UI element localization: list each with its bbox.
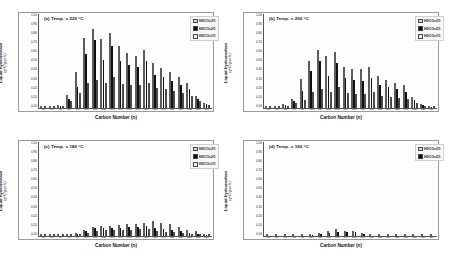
x-tick: C13	[108, 237, 117, 240]
bar	[347, 93, 349, 108]
bar-group	[324, 142, 333, 236]
legend-item[interactable]: H2/CO=1/1	[193, 34, 215, 39]
x-tick: C5	[39, 237, 48, 240]
x-tick: C20	[393, 237, 402, 240]
bar	[165, 89, 167, 108]
bar-group	[142, 14, 151, 108]
y-tick: 0.80	[256, 32, 263, 35]
x-tick: C13	[108, 109, 117, 112]
x-tick: C16	[359, 109, 368, 112]
legend-label: H2/CO=3/1	[199, 147, 216, 151]
bar	[373, 92, 375, 108]
y-tick: 0.00	[256, 233, 263, 236]
plot-area-c	[39, 142, 211, 236]
bar	[148, 83, 150, 108]
bar	[355, 94, 357, 108]
x-tick: C20	[168, 109, 177, 112]
y-axis-unit-b: (gHC/gcat·hr)	[228, 30, 232, 96]
bar	[156, 88, 158, 108]
y-axis-unit-c: (gHC/gcat·hr)	[3, 158, 7, 224]
y-tick: 0.20	[31, 215, 38, 218]
bar-group	[290, 14, 299, 108]
x-tick: C11	[91, 237, 100, 240]
x-tick: C6	[273, 109, 282, 112]
x-tick: C10	[307, 237, 316, 240]
y-tick: 0.60	[256, 50, 263, 53]
legend-item[interactable]: H2/CO=2/1	[193, 26, 215, 31]
y-axis-label-text-d: Liquid hydrocarbon	[223, 171, 228, 211]
x-tick: C10	[82, 109, 91, 112]
bar-group	[177, 142, 186, 236]
legend-item[interactable]: H2/CO=1/1	[193, 162, 215, 167]
x-tick: C16	[359, 237, 368, 240]
y-tick: 0.30	[256, 206, 263, 209]
bar	[70, 101, 72, 108]
bar-group	[273, 142, 282, 236]
bar	[113, 77, 115, 108]
x-tick: C19	[159, 109, 168, 112]
legend-item[interactable]: H2/CO=3/1	[418, 19, 440, 24]
x-tick: C9	[73, 237, 82, 240]
x-tick-labels-d: C5C6C7C8C9C10C11C12C13C14C15C16C17C18C19…	[264, 237, 436, 240]
y-tick: 0.80	[31, 160, 38, 163]
legend-item[interactable]: H2/CO=2/1	[418, 26, 440, 31]
bar-group	[281, 142, 290, 236]
bar-group	[333, 142, 342, 236]
legend-item[interactable]: H2/CO=1/1	[418, 34, 440, 39]
y-tick: 0.50	[256, 59, 263, 62]
y-tick: 1.00	[31, 14, 38, 17]
x-tick: C19	[159, 237, 168, 240]
bar-group	[82, 142, 91, 236]
bar-group	[65, 142, 74, 236]
bar	[304, 100, 306, 108]
y-tick-labels-c: 1.00 0.90 0.80 0.70 0.60 0.50 0.40 0.30 …	[20, 142, 38, 236]
x-axis-label-c: Carbon Number (n)	[18, 243, 214, 248]
x-tick: C23	[419, 237, 428, 240]
y-tick: 0.50	[256, 187, 263, 190]
legend-item[interactable]: H2/CO=2/1	[193, 154, 215, 159]
x-tick: C12	[324, 109, 333, 112]
y-tick: 0.60	[31, 178, 38, 181]
legend-item[interactable]: H2/CO=3/1	[193, 19, 215, 24]
bar-group	[316, 142, 325, 236]
bar-group-container	[39, 14, 211, 108]
x-tick: C22	[185, 237, 194, 240]
x-tick: C14	[341, 109, 350, 112]
bar-group	[39, 14, 48, 108]
legend-item[interactable]: H2/CO=3/1	[193, 147, 215, 152]
y-tick: 0.40	[256, 196, 263, 199]
y-tick: 0.60	[256, 178, 263, 181]
y-tick: 0.30	[31, 206, 38, 209]
x-tick: C13	[333, 109, 342, 112]
bar-group	[281, 14, 290, 108]
chart-panel-c: (c) Temp. = 180 °C Liquid hydrocarbon (g…	[0, 128, 225, 256]
x-tick: C9	[73, 109, 82, 112]
x-tick: C24	[427, 237, 436, 240]
bar-group	[350, 14, 359, 108]
bar-group	[65, 14, 74, 108]
y-tick: 0.60	[31, 50, 38, 53]
bar-group	[134, 142, 143, 236]
bar-group	[108, 142, 117, 236]
y-tick: 0.80	[256, 160, 263, 163]
legend-a: H2/CO=3/1H2/CO=2/1H2/CO=1/1	[190, 16, 219, 41]
y-tick: 0.50	[31, 187, 38, 190]
x-tick: C23	[419, 109, 428, 112]
legend-c: H2/CO=3/1H2/CO=2/1H2/CO=1/1	[190, 144, 219, 169]
bar-group	[367, 14, 376, 108]
x-tick: C8	[65, 237, 74, 240]
bar-group	[99, 142, 108, 236]
bar	[139, 85, 141, 109]
y-tick: 0.90	[31, 23, 38, 26]
bar	[105, 83, 107, 108]
x-tick: C16	[134, 109, 143, 112]
y-tick: 1.00	[256, 142, 263, 145]
legend-item[interactable]: H2/CO=3/1	[418, 147, 440, 152]
bar-group	[48, 142, 57, 236]
x-tick-labels-c: C5C6C7C8C9C10C11C12C13C14C15C16C17C18C19…	[39, 237, 211, 240]
bar-group	[73, 142, 82, 236]
y-axis-unit-a: (gHC/gcat·hr)	[3, 30, 7, 96]
x-tick: C14	[341, 237, 350, 240]
legend-item[interactable]: H2/CO=2/1	[418, 154, 440, 159]
bar-group	[159, 14, 168, 108]
